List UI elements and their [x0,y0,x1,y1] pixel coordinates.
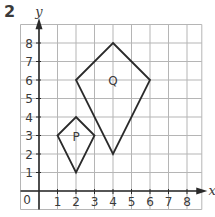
coordinate-grid: 12345678123456780xyPQ [0,0,215,217]
y-tick-label: 4 [25,111,33,125]
origin-label: 0 [23,193,31,207]
x-tick-label: 3 [91,195,99,209]
x-tick-label: 2 [72,195,80,209]
y-tick-label: 1 [25,166,33,180]
y-tick-label: 5 [25,92,33,106]
x-tick-label: 4 [109,195,117,209]
y-tick-label: 6 [25,74,33,88]
x-tick-label: 6 [146,195,154,209]
x-tick-label: 7 [165,195,173,209]
x-tick-label: 1 [54,195,62,209]
x-tick-label: 8 [183,195,191,209]
y-tick-label: 2 [25,148,33,162]
y-axis-arrow-icon [36,18,43,29]
y-tick-label: 3 [25,129,33,143]
y-tick-label: 7 [25,55,33,69]
x-axis-label: x [208,183,215,198]
shape-label-p: P [72,130,79,144]
shape-label-q: Q [108,74,117,88]
x-tick-label: 5 [128,195,136,209]
y-tick-label: 8 [25,37,33,51]
y-axis-label: y [34,4,43,19]
